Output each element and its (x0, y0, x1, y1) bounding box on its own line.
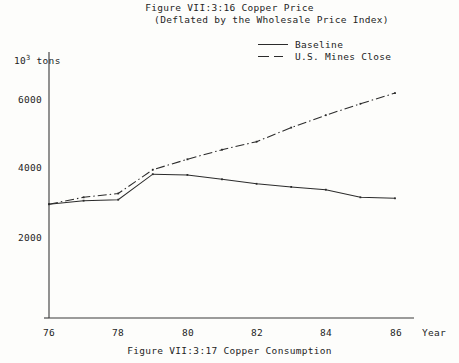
data-point (221, 149, 223, 151)
data-point (256, 183, 258, 185)
series-line-us-mines-close (49, 93, 395, 204)
data-point (256, 141, 258, 143)
data-point (325, 189, 327, 191)
chart-axes (44, 52, 414, 318)
data-point (290, 127, 292, 129)
data-point (83, 200, 85, 202)
data-point (325, 114, 327, 116)
data-point (48, 203, 50, 205)
data-point (221, 178, 223, 180)
data-point (187, 174, 189, 176)
figure-page: Figure VII:3:16 Copper Price (Deflated b… (0, 0, 459, 363)
data-point (394, 92, 396, 94)
chart-plot-area (0, 0, 459, 363)
data-point (83, 196, 85, 198)
data-point (290, 186, 292, 188)
data-point (394, 197, 396, 199)
data-point (152, 173, 154, 175)
data-point (360, 103, 362, 105)
figure-bottom-caption: Figure VII:3:17 Copper Consumption (0, 345, 459, 356)
data-point (152, 169, 154, 171)
data-point (117, 199, 119, 201)
data-point (187, 158, 189, 160)
data-point (117, 193, 119, 195)
series-markers-us-mines-close (48, 92, 396, 205)
data-point (360, 196, 362, 198)
